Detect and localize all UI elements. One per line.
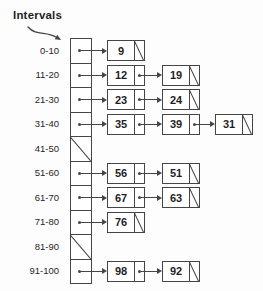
pointer-arrow-line bbox=[80, 50, 102, 51]
pointer-arrow-line bbox=[80, 173, 102, 174]
node-value: 9 bbox=[108, 41, 135, 60]
pointer-arrow-line bbox=[141, 99, 157, 100]
node-value: 67 bbox=[108, 188, 135, 207]
interval-label: 91-100 bbox=[0, 265, 59, 277]
interval-label: 0-10 bbox=[0, 45, 59, 57]
diagram-canvas: Intervals 0-10911-20121921-30232431-4035… bbox=[0, 0, 263, 291]
node-value: 56 bbox=[108, 164, 135, 183]
interval-label: 31-40 bbox=[0, 118, 59, 130]
pointer-arrow-line bbox=[141, 271, 157, 272]
node-value: 98 bbox=[108, 262, 135, 281]
intervals-arrow-icon bbox=[22, 22, 68, 46]
interval-label: 11-20 bbox=[0, 69, 59, 81]
cell-divider bbox=[71, 234, 91, 235]
interval-label: 41-50 bbox=[0, 143, 59, 155]
node-value: 35 bbox=[108, 115, 135, 134]
node-value: 24 bbox=[163, 90, 190, 109]
cell-divider bbox=[71, 185, 91, 186]
diagram-title: Intervals bbox=[13, 9, 62, 21]
pointer-arrow-line bbox=[196, 124, 210, 125]
pointer-arrow-line bbox=[80, 99, 102, 100]
cell-divider bbox=[71, 87, 91, 88]
pointer-arrow-line bbox=[141, 197, 157, 198]
cell-divider bbox=[71, 259, 91, 260]
pointer-arrow-line bbox=[141, 173, 157, 174]
node-value: 92 bbox=[163, 262, 190, 281]
interval-label: 21-30 bbox=[0, 94, 59, 106]
node-value: 23 bbox=[108, 90, 135, 109]
node-value: 12 bbox=[108, 66, 135, 85]
cell-divider bbox=[71, 112, 91, 113]
interval-label: 71-80 bbox=[0, 216, 59, 228]
pointer-arrow-line bbox=[80, 75, 102, 76]
pointer-arrow-line bbox=[80, 222, 102, 223]
node-value: 31 bbox=[216, 115, 243, 134]
pointer-arrow-line bbox=[141, 75, 157, 76]
node-value: 51 bbox=[163, 164, 190, 183]
node-value: 76 bbox=[108, 213, 135, 232]
pointer-arrow-line bbox=[80, 271, 102, 272]
interval-label: 51-60 bbox=[0, 167, 59, 179]
pointer-arrow-line bbox=[80, 197, 102, 198]
node-value: 39 bbox=[163, 115, 190, 134]
interval-label: 61-70 bbox=[0, 192, 59, 204]
interval-label: 81-90 bbox=[0, 241, 59, 253]
node-value: 63 bbox=[163, 188, 190, 207]
cell-divider bbox=[71, 161, 91, 162]
pointer-arrow-line bbox=[141, 124, 157, 125]
node-value: 19 bbox=[163, 66, 190, 85]
cell-divider bbox=[71, 210, 91, 211]
cell-divider bbox=[71, 136, 91, 137]
cell-divider bbox=[71, 63, 91, 64]
pointer-arrow-line bbox=[80, 124, 102, 125]
